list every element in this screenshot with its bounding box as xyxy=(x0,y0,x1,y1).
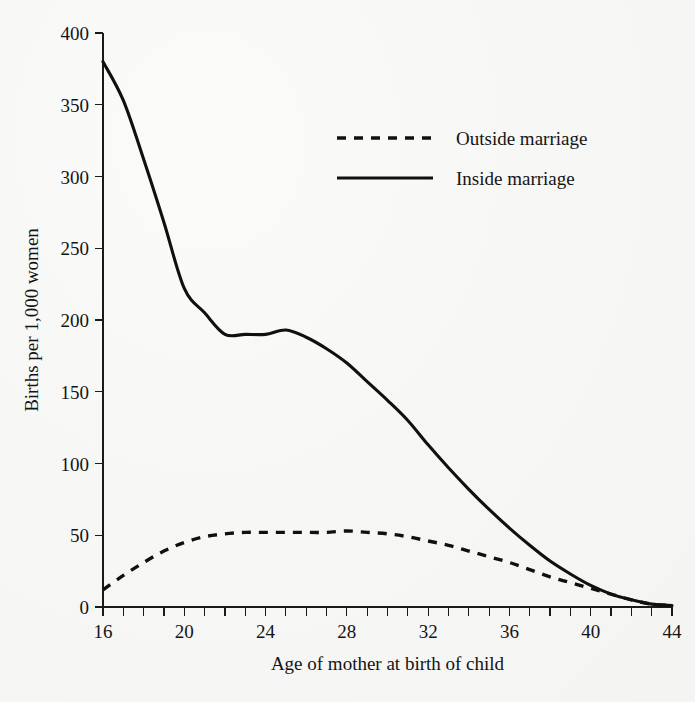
y-tick-label: 400 xyxy=(61,23,90,44)
x-tick-label: 28 xyxy=(337,621,356,642)
x-tick-label: 24 xyxy=(256,621,276,642)
chart-canvas: 0501001502002503003504001620242832364044… xyxy=(0,0,695,702)
y-tick-label: 50 xyxy=(70,525,89,546)
series-line-outside-marriage xyxy=(103,531,672,606)
x-tick-label: 44 xyxy=(663,621,683,642)
y-tick-label: 300 xyxy=(61,167,90,188)
legend-label-1: Inside marriage xyxy=(456,168,575,189)
y-tick-label: 200 xyxy=(61,310,90,331)
x-tick-label: 32 xyxy=(419,621,438,642)
legend-label-0: Outside marriage xyxy=(456,128,587,149)
x-tick-label: 20 xyxy=(175,621,194,642)
x-tick-label: 40 xyxy=(581,621,600,642)
y-tick-label: 250 xyxy=(61,238,90,259)
y-tick-label: 100 xyxy=(61,454,90,475)
x-tick-label: 16 xyxy=(94,621,113,642)
line-chart: 0501001502002503003504001620242832364044… xyxy=(0,0,695,702)
y-axis-title: Births per 1,000 women xyxy=(21,228,42,412)
y-tick-label: 350 xyxy=(61,95,90,116)
y-tick-label: 0 xyxy=(80,597,90,618)
y-tick-label: 150 xyxy=(61,382,90,403)
x-axis-title: Age of mother at birth of child xyxy=(271,653,505,674)
x-tick-label: 36 xyxy=(500,621,519,642)
